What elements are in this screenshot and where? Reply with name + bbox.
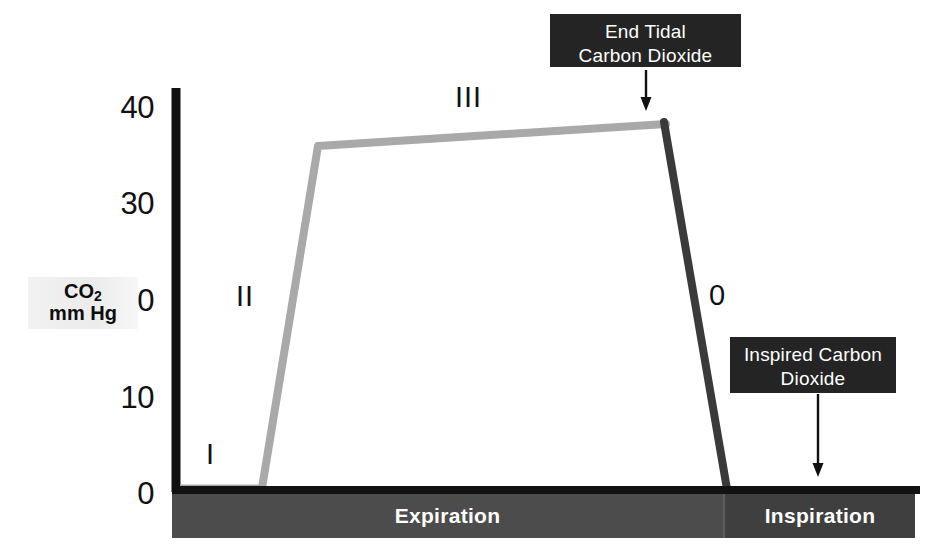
inspired-co2-arrow bbox=[813, 394, 824, 477]
respiratory-phase-bar: Expiration Inspiration bbox=[172, 494, 915, 538]
callout-end-tidal-line1: End Tidal bbox=[558, 20, 733, 44]
phase-label-I: I bbox=[206, 440, 215, 469]
phase-label-0: 0 bbox=[709, 281, 726, 310]
phase-label-II: II bbox=[236, 282, 254, 311]
callout-inspired-line2: Dioxide bbox=[738, 367, 888, 391]
phase-segment-inspiration: Inspiration bbox=[725, 494, 915, 538]
baseline-bar bbox=[172, 486, 920, 494]
y-axis-title: CO2 mm Hg bbox=[28, 277, 138, 329]
callout-inspired-carbon-dioxide: Inspired Carbon Dioxide bbox=[730, 337, 896, 393]
callout-inspired-line1: Inspired Carbon bbox=[738, 343, 888, 367]
callout-end-tidal-carbon-dioxide: End Tidal Carbon Dioxide bbox=[550, 14, 741, 67]
y-tick-40: 40 bbox=[84, 92, 154, 123]
y-axis-title-line2: mm Hg bbox=[30, 302, 136, 324]
callout-end-tidal-line2: Carbon Dioxide bbox=[558, 44, 733, 68]
y-tick-30: 30 bbox=[84, 188, 154, 219]
y-tick-10: 10 bbox=[84, 382, 154, 413]
y-tick-0: 0 bbox=[84, 478, 154, 509]
end-tidal-arrow bbox=[641, 70, 652, 111]
phase-label-III: III bbox=[455, 83, 482, 112]
capnography-figure: 40 30 20 10 0 CO2 mm Hg I II III 0 End T… bbox=[0, 0, 943, 556]
phase-segment-expiration: Expiration bbox=[172, 494, 725, 538]
y-axis-title-line1: CO2 bbox=[30, 280, 136, 302]
expiratory-upstroke-plateau bbox=[262, 124, 666, 488]
